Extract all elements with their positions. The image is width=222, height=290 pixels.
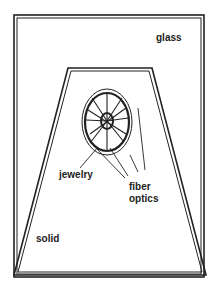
glass-label: glass xyxy=(156,32,182,43)
diagram-canvas: glass solid jewelry fiber optics xyxy=(0,0,222,290)
jewelry-label: jewelry xyxy=(58,169,93,180)
jewelry-wheel xyxy=(82,89,132,155)
optics-label: optics xyxy=(129,193,159,204)
jewelry-leader xyxy=(80,147,98,168)
fiber-label: fiber xyxy=(129,181,151,192)
solid-label: solid xyxy=(36,233,59,244)
